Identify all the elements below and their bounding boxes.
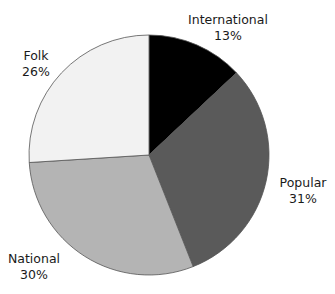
label-international-value: 13% [188,28,268,44]
label-popular: Popular 31% [280,175,327,207]
pie-chart [0,0,335,294]
label-international: International 13% [188,12,268,44]
label-folk-name: Folk [22,48,50,64]
label-national-name: National [8,251,60,267]
label-international-name: International [188,12,268,28]
label-popular-value: 31% [280,191,327,207]
label-popular-name: Popular [280,175,327,191]
label-national: National 30% [8,251,60,283]
label-folk-value: 26% [22,64,50,80]
label-folk: Folk 26% [22,48,50,80]
label-national-value: 30% [8,267,60,283]
